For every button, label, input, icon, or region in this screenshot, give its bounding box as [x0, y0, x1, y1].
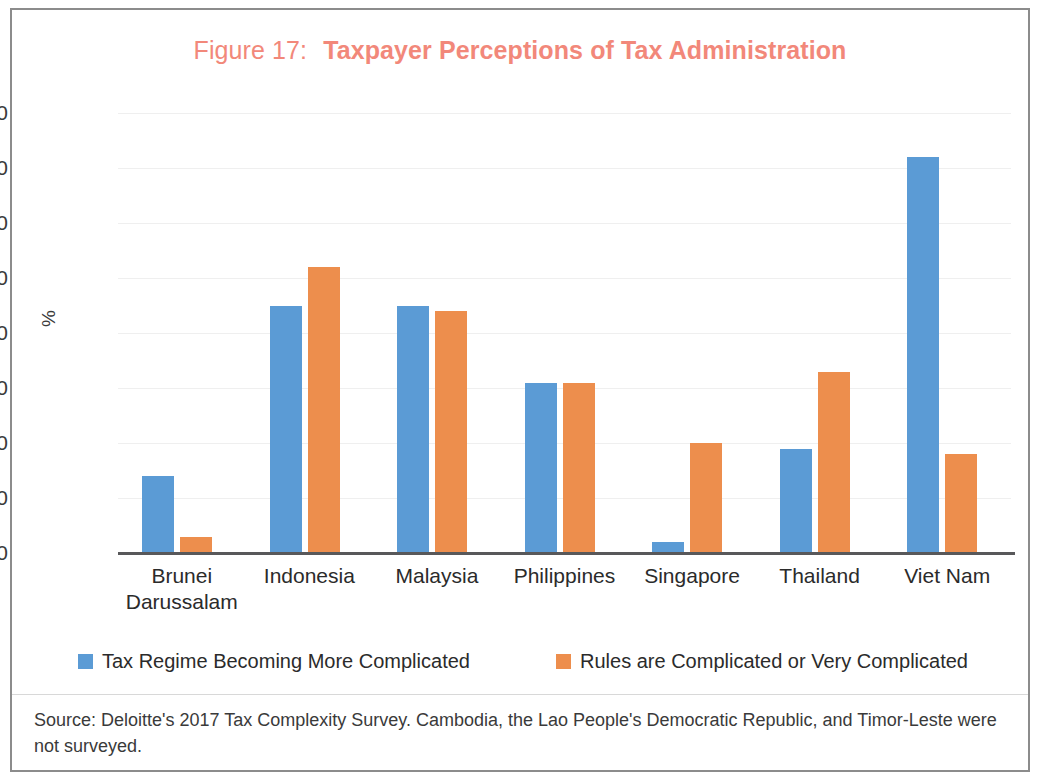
bar[interactable] — [270, 306, 302, 554]
legend-label: Rules are Complicated or Very Complicate… — [580, 650, 968, 673]
source-separator — [12, 694, 1028, 695]
x-axis-tick-label: BruneiDarussalam — [118, 563, 246, 615]
bar[interactable] — [142, 476, 174, 553]
bar[interactable] — [780, 449, 812, 554]
legend-item[interactable]: Tax Regime Becoming More Complicated — [78, 650, 470, 673]
bar-group — [373, 113, 501, 553]
y-axis-tick-label: 50 — [0, 266, 8, 290]
bar-group — [628, 113, 756, 553]
x-axis-tick-label: Indonesia — [246, 563, 374, 589]
bar[interactable] — [690, 443, 722, 553]
source-note: Source: Deloitte's 2017 Tax Complexity S… — [34, 707, 1002, 759]
y-axis-tick-label: 70 — [0, 156, 8, 180]
x-axis-tick-label-line: Viet Nam — [883, 563, 1011, 589]
chart-legend: Tax Regime Becoming More ComplicatedRule… — [78, 650, 978, 676]
legend-label: Tax Regime Becoming More Complicated — [102, 650, 470, 673]
figure-container: Figure 17:Taxpayer Perceptions of Tax Ad… — [0, 0, 1040, 780]
x-axis-tick-label-line: Singapore — [628, 563, 756, 589]
x-axis-tick-label-line: Philippines — [501, 563, 629, 589]
bar-group — [118, 113, 246, 553]
y-axis-label: % — [38, 310, 60, 327]
y-axis-tick-label: 60 — [0, 211, 8, 235]
y-axis-tick-label: 80 — [0, 101, 8, 125]
bar[interactable] — [945, 454, 977, 553]
y-axis-tick-label: 0 — [0, 541, 8, 565]
bar[interactable] — [907, 157, 939, 553]
bar-group — [501, 113, 629, 553]
bar[interactable] — [308, 267, 340, 553]
x-axis-tick-label: Philippines — [501, 563, 629, 589]
bar-group — [246, 113, 374, 553]
bar[interactable] — [180, 537, 212, 554]
x-axis-tick-label: Malaysia — [373, 563, 501, 589]
bar[interactable] — [435, 311, 467, 553]
x-axis-tick-label: Thailand — [756, 563, 884, 589]
x-axis-tick-label-line: Brunei — [118, 563, 246, 589]
x-axis-line — [118, 552, 1015, 555]
x-axis-tick-label-line: Indonesia — [246, 563, 374, 589]
y-axis-tick-label: 20 — [0, 431, 8, 455]
legend-item[interactable]: Rules are Complicated or Very Complicate… — [556, 650, 968, 673]
bars-layer — [118, 113, 1011, 553]
bar[interactable] — [818, 372, 850, 554]
bar[interactable] — [525, 383, 557, 554]
x-axis-tick-label: Viet Nam — [883, 563, 1011, 589]
bar[interactable] — [563, 383, 595, 554]
x-axis-tick-label: Singapore — [628, 563, 756, 589]
y-axis-tick-label: 40 — [0, 321, 8, 345]
x-axis-tick-label-line: Thailand — [756, 563, 884, 589]
legend-swatch-icon — [556, 654, 571, 669]
bar[interactable] — [397, 306, 429, 554]
y-axis-tick-label: 30 — [0, 376, 8, 400]
bar-group — [756, 113, 884, 553]
legend-swatch-icon — [78, 654, 93, 669]
y-axis-tick-label: 10 — [0, 486, 8, 510]
x-axis-tick-label-line: Malaysia — [373, 563, 501, 589]
bar-group — [883, 113, 1011, 553]
x-axis-tick-label-line: Darussalam — [118, 589, 246, 615]
